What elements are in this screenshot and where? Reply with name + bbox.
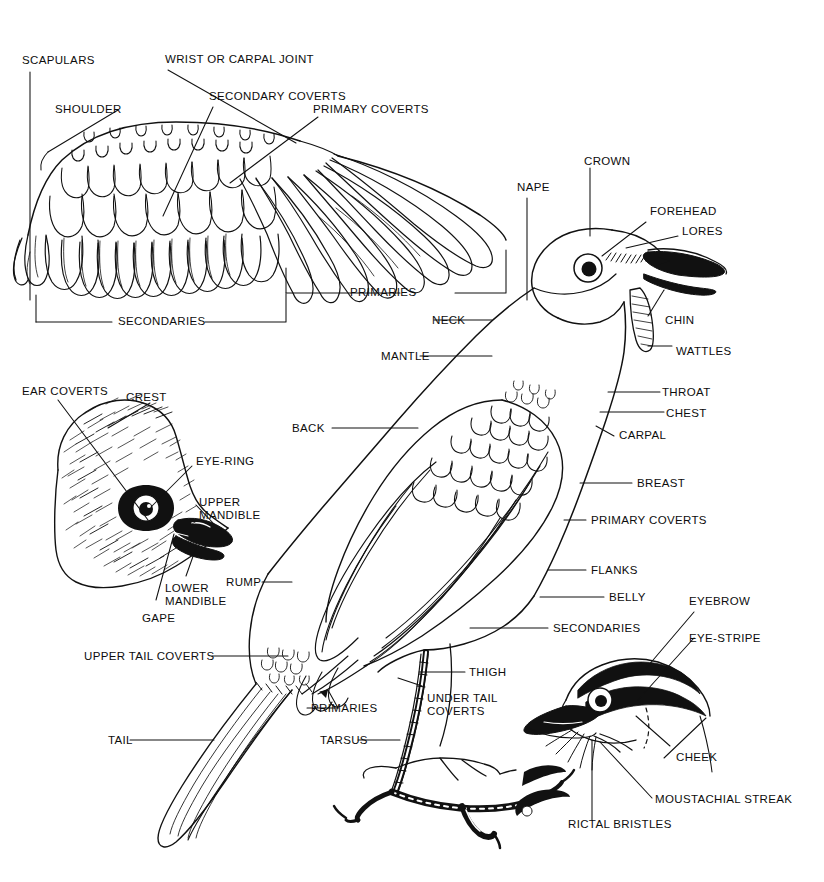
label-lores: LORES (682, 225, 723, 238)
label-wrist-or-carpal-joint: WRIST OR CARPAL JOINT (165, 53, 314, 66)
label-crest: CREST (126, 391, 167, 404)
label-lower-mandible-line1: LOWER (165, 582, 209, 595)
label-primary-coverts: PRIMARY COVERTS (313, 103, 429, 116)
label-breast: BREAST (637, 477, 685, 490)
label-belly: BELLY (609, 591, 646, 604)
label-primaries: PRIMARIES (350, 286, 416, 299)
diagram-artwork (0, 0, 824, 882)
label-thigh: THIGH (469, 666, 507, 679)
label-cheek: CHEEK (676, 751, 717, 764)
label-primaries-body: PRIMARIES (311, 702, 377, 715)
label-secondary-coverts: SECONDARY COVERTS (209, 90, 346, 103)
label-under-tail-coverts-l2: COVERTS (427, 705, 485, 718)
label-wattles: WATTLES (676, 345, 731, 358)
label-upper-tail-coverts: UPPER TAIL COVERTS (84, 650, 215, 663)
label-mantle: MANTLE (381, 350, 430, 363)
label-primary-coverts-body: PRIMARY COVERTS (591, 514, 707, 527)
label-chin: CHIN (665, 314, 695, 327)
label-throat: THROAT (662, 386, 711, 399)
label-tarsus: TARSUS (320, 734, 368, 747)
label-eye-ring: EYE-RING (196, 455, 254, 468)
label-upper-mandible-line2: MANDIBLE (199, 509, 261, 522)
bird-topography-diagram: SCAPULARS WRIST OR CARPAL JOINT SHOULDER… (0, 0, 824, 882)
label-rump: RUMP (226, 576, 261, 589)
label-eye-stripe: EYE-STRIPE (689, 632, 761, 645)
label-lower-mandible-line2: MANDIBLE (165, 595, 227, 608)
label-eyebrow: EYEBROW (689, 595, 750, 608)
label-chest: CHEST (666, 407, 707, 420)
label-moustachial-streak: MOUSTACHIAL STREAK (655, 793, 792, 806)
label-secondaries: SECONDARIES (118, 315, 206, 328)
label-shoulder: SHOULDER (55, 103, 122, 116)
label-neck: NECK (432, 314, 465, 327)
label-back: BACK (292, 422, 325, 435)
label-upper-mandible-line1: UPPER (199, 496, 240, 509)
label-forehead: FOREHEAD (650, 205, 717, 218)
label-flanks: FLANKS (591, 564, 638, 577)
label-rictal-bristles: RICTAL BRISTLES (568, 818, 672, 831)
label-secondaries-body: SECONDARIES (553, 622, 641, 635)
label-carpal: CARPAL (619, 429, 666, 442)
label-nape: NAPE (517, 181, 550, 194)
label-ear-coverts: EAR COVERTS (22, 385, 108, 398)
label-scapulars: SCAPULARS (22, 54, 95, 67)
label-gape: GAPE (142, 612, 175, 625)
label-under-tail-coverts-l1: UNDER TAIL (427, 692, 498, 705)
label-tail: TAIL (108, 734, 133, 747)
label-crown: CROWN (584, 155, 630, 168)
